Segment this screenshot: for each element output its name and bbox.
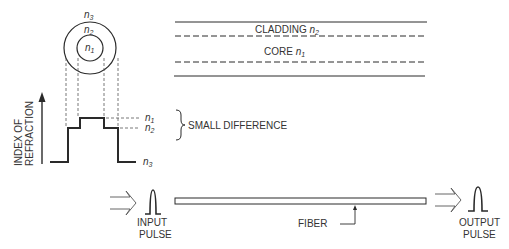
svg-text:REFRACTION: REFRACTION xyxy=(24,101,35,166)
fiber-label: FIBER xyxy=(298,218,327,229)
output-pulse-icon xyxy=(468,187,488,211)
input-arrow-icon xyxy=(110,191,136,215)
arrowhead-icon xyxy=(39,92,46,102)
fiber-rod xyxy=(175,198,426,204)
output-pulse-label-line1: OUTPUT xyxy=(459,217,500,228)
svg-text:INDEX OF: INDEX OF xyxy=(13,119,24,166)
step-index-profile xyxy=(50,118,136,162)
pointer-arrowhead-icon xyxy=(353,205,357,210)
fiber-cross-section: n3 n2 n1 xyxy=(64,9,116,74)
small-difference-label: SMALL DIFFERENCE xyxy=(188,120,287,131)
cladding-label: CLADDING xyxy=(255,24,309,35)
brace-icon xyxy=(176,110,185,140)
svg-text:n2: n2 xyxy=(84,24,94,36)
index-profile: INDEX OF REFRACTION n1 n2 n3 SMALL DIFFE… xyxy=(13,92,287,168)
input-pulse-label-line2: PULSE xyxy=(139,229,172,240)
svg-text:n3: n3 xyxy=(84,9,94,21)
svg-text:n1: n1 xyxy=(85,42,95,54)
axis-label-line2: REFRACTION xyxy=(24,101,35,166)
input-pulse-icon xyxy=(145,190,161,214)
core-label: CORE xyxy=(264,46,296,57)
fiber-longitudinal-view: CLADDING n2 CORE n1 xyxy=(174,22,427,76)
svg-text:n3: n3 xyxy=(143,156,153,168)
fiber-pointer-line xyxy=(340,208,355,224)
input-pulse-label-line1: INPUT xyxy=(137,217,167,228)
output-arrow-icon xyxy=(435,188,461,212)
axis-label-line1: INDEX OF xyxy=(13,119,24,166)
svg-text:CORE n1: CORE n1 xyxy=(264,46,305,58)
pulse-transmission: INPUT PULSE FIBER OUTPUT PULSE xyxy=(110,187,500,240)
output-pulse-label-line2: PULSE xyxy=(463,229,496,240)
svg-text:CLADDING n2: CLADDING n2 xyxy=(255,24,319,36)
